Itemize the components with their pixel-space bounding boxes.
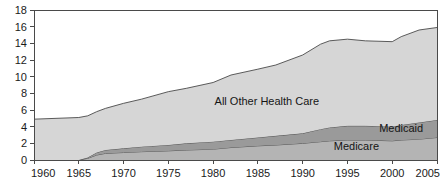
x-tick-label: 1970: [111, 167, 135, 179]
x-tick-label: 1975: [156, 167, 180, 179]
chart-canvas: 0246810121416181960196519701975198019851…: [0, 0, 446, 184]
y-tick-label: 18: [15, 4, 27, 16]
y-tick-label: 16: [15, 21, 27, 33]
y-tick-label: 0: [21, 154, 27, 166]
y-tick-label: 14: [15, 37, 27, 49]
y-tick-label: 4: [21, 121, 27, 133]
x-tick-label: 1995: [335, 167, 359, 179]
y-tick-label: 8: [21, 87, 27, 99]
x-tick-label: 1980: [201, 167, 225, 179]
x-tick-label: 2000: [380, 167, 404, 179]
series-label-medicaid: Medicaid: [379, 122, 423, 134]
series-label-all-other-health-care: All Other Health Care: [215, 95, 320, 107]
x-tick-label: 1965: [67, 167, 91, 179]
series-label-medicare: Medicare: [334, 140, 379, 152]
x-tick-label: 1990: [290, 167, 314, 179]
x-tick-label: 1985: [246, 167, 270, 179]
health-care-spending-area-chart: 0246810121416181960196519701975198019851…: [0, 0, 446, 184]
x-tick-label: 1960: [31, 167, 55, 179]
y-tick-label: 10: [15, 71, 27, 83]
x-tick-label: 2005: [416, 167, 440, 179]
y-tick-label: 2: [21, 137, 27, 149]
y-tick-label: 6: [21, 104, 27, 116]
y-tick-label: 12: [15, 54, 27, 66]
